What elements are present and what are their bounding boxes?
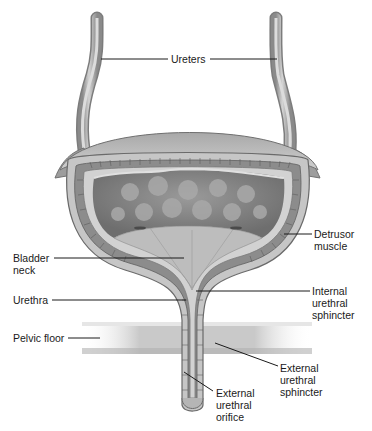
label-external-urethral-sphincter: External urethral sphincter xyxy=(280,362,323,398)
label-urethra: Urethra xyxy=(13,294,48,306)
right-ureter xyxy=(276,18,290,150)
label-detrusor-muscle: Detrusor muscle xyxy=(314,228,354,252)
bladder-lumen xyxy=(93,169,285,290)
left-ureter xyxy=(82,18,97,150)
label-internal-urethral-sphincter: Internal urethral sphincter xyxy=(312,285,355,321)
label-ureters: Ureters xyxy=(171,53,205,65)
label-pelvic-floor: Pelvic floor xyxy=(13,332,64,344)
label-bladder-neck: Bladder neck xyxy=(13,252,49,276)
label-external-urethral-orifice: External urethral orifice xyxy=(216,387,255,423)
